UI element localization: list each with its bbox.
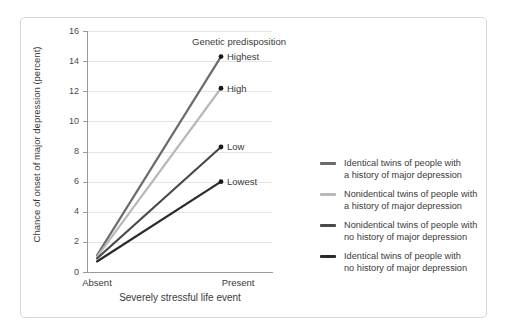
legend-label-line1: Identical twins of people with	[344, 158, 462, 170]
y-tick-mark	[83, 31, 87, 32]
genetic-predisposition-title: Genetic predisposition	[192, 36, 286, 47]
legend-entry[interactable]: Nonidentical twins of people withno hist…	[320, 220, 480, 243]
legend-swatch-icon	[320, 255, 336, 258]
y-tick-mark	[83, 121, 87, 122]
legend-label-line1: Nonidentical twins of people with	[344, 189, 477, 201]
y-tick-mark	[83, 272, 87, 273]
series-endpoint-marker	[219, 54, 224, 59]
y-tick-mark	[83, 152, 87, 153]
y-tick-mark	[83, 212, 87, 213]
legend-label-line2: no history of major depression	[344, 232, 477, 244]
legend-label: Identical twins of people withno history…	[344, 251, 467, 274]
legend-label: Nonidentical twins of people withno hist…	[344, 220, 477, 243]
point-label-lowest: Lowest	[227, 176, 257, 187]
legend-entry[interactable]: Nonidentical twins of people witha histo…	[320, 189, 480, 212]
y-tick-mark	[83, 61, 87, 62]
series-line	[97, 57, 221, 256]
legend-entry[interactable]: Identical twins of people witha history …	[320, 158, 480, 181]
point-label-high: High	[227, 83, 247, 94]
series-endpoint-marker	[219, 145, 224, 150]
series-line	[97, 88, 221, 257]
legend-swatch-icon	[320, 193, 336, 196]
series-line	[97, 147, 221, 258]
legend-label-line2: no history of major depression	[344, 263, 467, 275]
legend-swatch-icon	[320, 162, 336, 165]
series-endpoint-marker	[219, 86, 224, 91]
point-label-low: Low	[227, 141, 244, 152]
y-tick-mark	[83, 242, 87, 243]
legend-swatch-icon	[320, 224, 336, 227]
legend-label-line1: Nonidentical twins of people with	[344, 220, 477, 232]
legend-label-line2: a history of major depression	[344, 201, 477, 213]
legend-entry[interactable]: Identical twins of people withno history…	[320, 251, 480, 274]
series-endpoint-marker	[219, 179, 224, 184]
point-label-highest: Highest	[227, 51, 259, 62]
legend-label: Nonidentical twins of people witha histo…	[344, 189, 477, 212]
y-tick-mark	[83, 182, 87, 183]
series-line	[97, 182, 221, 262]
y-tick-mark	[83, 91, 87, 92]
legend: Identical twins of people witha history …	[320, 158, 480, 282]
legend-label-line1: Identical twins of people with	[344, 251, 467, 263]
legend-label-line2: a history of major depression	[344, 170, 462, 182]
legend-label: Identical twins of people witha history …	[344, 158, 462, 181]
